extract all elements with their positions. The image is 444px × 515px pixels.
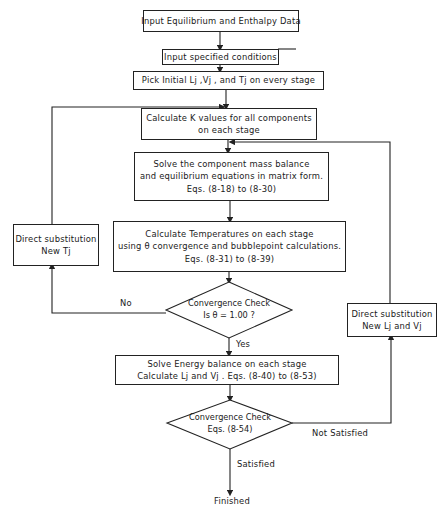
- conv-check-2-line2: Eqs. (8-54): [189, 424, 271, 436]
- solve-energy-line2: Calculate Lj and Vj . Eqs. (8-40) to (8-…: [137, 370, 317, 382]
- edge-label-not-satisfied: Not Satisfied: [312, 428, 368, 438]
- input-data-box: Input Equilibrium and Enthalpy Data: [143, 10, 299, 32]
- solve-mass-line3: Eqs. (8-18) to (8-30): [187, 183, 276, 195]
- edge-label-yes: Yes: [236, 339, 250, 349]
- calc-temp-line3: Eqs. (8-31) to (8-39): [185, 253, 274, 265]
- finished-label: Finished: [214, 496, 250, 506]
- direct-sub-lv-line2: New Lj and Vj: [362, 320, 422, 332]
- calc-temp-box: Calculate Temperatures on each stage usi…: [113, 221, 346, 272]
- conv-check-2-text: Convergence Check Eqs. (8-54): [189, 412, 271, 436]
- calc-k-line2: on each stage: [198, 124, 260, 136]
- conv-check-1-text: Convergence Check Is θ = 1.00 ?: [188, 298, 270, 322]
- calc-k-line1: Calculate K values for all components: [146, 112, 312, 124]
- solve-energy-box: Solve Energy balance on each stage Calcu…: [115, 355, 339, 385]
- calc-k-box: Calculate K values for all components on…: [141, 108, 317, 140]
- input-conditions-label: Input specified conditions: [164, 51, 277, 63]
- direct-sub-t-box: Direct substitution New Tj: [13, 224, 99, 266]
- calc-temp-line1: Calculate Temperatures on each stage: [145, 228, 313, 240]
- conv-check-2-line1: Convergence Check: [189, 412, 271, 424]
- solve-mass-line2: and equilibrium equations in matrix form…: [140, 170, 323, 182]
- edge-label-satisfied: Satisfied: [237, 459, 275, 469]
- input-conditions-box: Input specified conditions: [162, 49, 279, 65]
- solve-energy-line1: Solve Energy balance on each stage: [147, 358, 306, 370]
- direct-sub-t-line1: Direct substitution: [15, 233, 96, 245]
- direct-sub-lv-box: Direct substitution New Lj and Vj: [347, 303, 437, 337]
- direct-sub-t-line2: New Tj: [41, 245, 71, 257]
- solve-mass-box: Solve the component mass balance and equ…: [134, 152, 329, 201]
- calc-temp-line2: using θ convergence and bubblepoint calc…: [118, 240, 341, 252]
- solve-mass-line1: Solve the component mass balance: [153, 158, 309, 170]
- pick-initial-box: Pick Initial Lj ,Vj , and Tj on every st…: [133, 71, 324, 90]
- conv-check-1-line2: Is θ = 1.00 ?: [188, 310, 270, 322]
- pick-initial-label: Pick Initial Lj ,Vj , and Tj on every st…: [142, 74, 315, 86]
- conv-check-1-line1: Convergence Check: [188, 298, 270, 310]
- edge-label-no: No: [120, 298, 132, 308]
- input-data-label: Input Equilibrium and Enthalpy Data: [141, 15, 300, 27]
- direct-sub-lv-line1: Direct substitution: [351, 308, 432, 320]
